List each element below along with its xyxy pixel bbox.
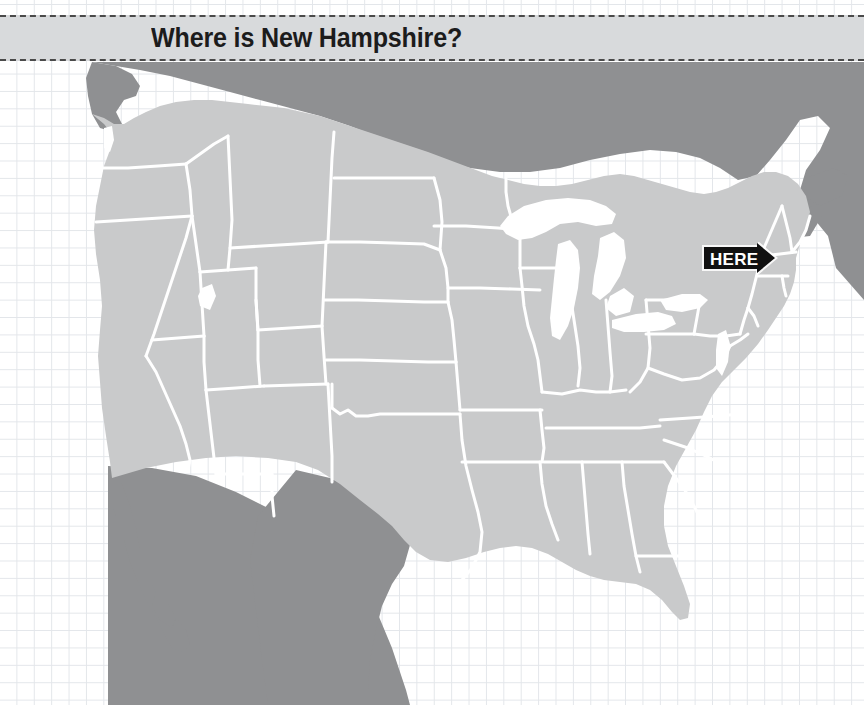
here-marker: HERE bbox=[702, 242, 778, 274]
title-banner: Where is New Hampshire? bbox=[0, 15, 864, 61]
here-label: HERE bbox=[710, 250, 758, 269]
locator-map-page: Where is New Hampshire? HERE bbox=[0, 0, 864, 705]
page-title: Where is New Hampshire? bbox=[151, 23, 462, 54]
united-states-map bbox=[0, 0, 864, 705]
